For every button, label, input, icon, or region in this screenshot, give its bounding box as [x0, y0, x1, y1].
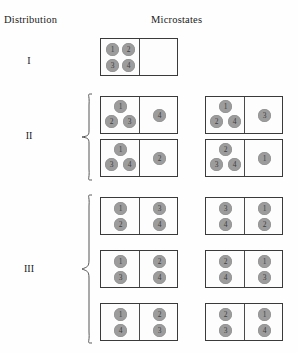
particle-token: 4 — [114, 324, 127, 337]
microstate-box: 1234 — [100, 38, 178, 76]
microstate-box: 1423 — [100, 303, 178, 341]
particle-token: 1 — [114, 100, 127, 113]
microstate-box: 2341 — [205, 139, 283, 177]
microstate-cell-right: 12 — [244, 198, 282, 234]
particle-token: 3 — [258, 271, 271, 284]
particle-token: 2 — [258, 218, 271, 231]
particle-token: 4 — [153, 109, 166, 122]
particle-token: 3 — [123, 115, 136, 128]
microstate-cell-left: 123 — [101, 97, 139, 133]
particle-token: 1 — [114, 202, 127, 215]
microstate-box: 2413 — [205, 250, 283, 288]
microstate-box: 1243 — [205, 96, 283, 134]
particle-token: 3 — [114, 271, 127, 284]
particle-token: 3 — [106, 59, 119, 72]
particle-token: 4 — [153, 218, 166, 231]
particle-token: 3 — [153, 202, 166, 215]
microstate-cell-right: 4 — [139, 97, 177, 133]
particle-token: 3 — [210, 158, 223, 171]
microstate-cell-right: 24 — [139, 251, 177, 287]
distribution-label-2: II — [9, 130, 49, 141]
microstate-cell-left: 23 — [206, 304, 244, 340]
particle-token: 1 — [258, 255, 271, 268]
microstate-box: 3412 — [205, 197, 283, 235]
microstate-cell-left: 13 — [101, 251, 139, 287]
particle-token: 2 — [114, 218, 127, 231]
particle-token: 3 — [219, 202, 232, 215]
column-header-microstates: Microstates — [151, 14, 202, 25]
microstate-cell-left: 34 — [206, 198, 244, 234]
brace-distribution-2 — [79, 93, 95, 181]
particle-token: 1 — [114, 308, 127, 321]
particle-token: 1 — [114, 143, 127, 156]
distribution-label-1: I — [9, 55, 49, 66]
distribution-label-3: III — [9, 263, 49, 274]
particle-token: 2 — [219, 143, 232, 156]
particle-token: 3 — [219, 324, 232, 337]
microstate-box: 1342 — [100, 139, 178, 177]
microstate-cell-left: 234 — [206, 140, 244, 176]
particle-token: 4 — [219, 218, 232, 231]
microstate-cell-right — [139, 39, 177, 75]
particle-token: 4 — [122, 59, 135, 72]
microstate-box: 1324 — [100, 250, 178, 288]
particle-token: 4 — [228, 115, 241, 128]
brace-distribution-3 — [79, 194, 95, 344]
microstate-box: 2314 — [205, 303, 283, 341]
microstate-cell-right: 23 — [139, 304, 177, 340]
microstate-box: 1234 — [100, 96, 178, 134]
particle-token: 2 — [153, 152, 166, 165]
microstate-cell-right: 3 — [244, 97, 282, 133]
microstate-cell-right: 14 — [244, 304, 282, 340]
particle-token: 1 — [258, 202, 271, 215]
particle-token: 2 — [219, 255, 232, 268]
microstate-cell-right: 34 — [139, 198, 177, 234]
particle-token: 1 — [106, 43, 119, 56]
microstate-cell-right: 1 — [244, 140, 282, 176]
particle-token: 2 — [105, 115, 118, 128]
particle-token: 2 — [210, 115, 223, 128]
microstate-cell-left: 134 — [101, 140, 139, 176]
column-header-distribution: Distribution — [4, 14, 57, 25]
particle-token: 4 — [153, 271, 166, 284]
particle-token: 3 — [258, 109, 271, 122]
microstate-cell-left: 1234 — [101, 39, 139, 75]
microstate-box: 1234 — [100, 197, 178, 235]
particle-token: 2 — [219, 308, 232, 321]
particle-token: 1 — [258, 308, 271, 321]
particle-token: 4 — [258, 324, 271, 337]
microstate-cell-left: 12 — [101, 198, 139, 234]
microstate-cell-left: 24 — [206, 251, 244, 287]
microstate-cell-right: 13 — [244, 251, 282, 287]
particle-token: 2 — [153, 255, 166, 268]
microstate-cell-right: 2 — [139, 140, 177, 176]
particle-token: 2 — [122, 43, 135, 56]
particle-token: 1 — [219, 100, 232, 113]
particle-token: 1 — [258, 152, 271, 165]
particle-token: 1 — [114, 255, 127, 268]
particle-token: 2 — [153, 308, 166, 321]
particle-token: 3 — [105, 158, 118, 171]
microstate-cell-left: 14 — [101, 304, 139, 340]
microstate-cell-left: 124 — [206, 97, 244, 133]
particle-token: 4 — [228, 158, 241, 171]
particle-token: 4 — [219, 271, 232, 284]
particle-token: 3 — [153, 324, 166, 337]
particle-token: 4 — [123, 158, 136, 171]
